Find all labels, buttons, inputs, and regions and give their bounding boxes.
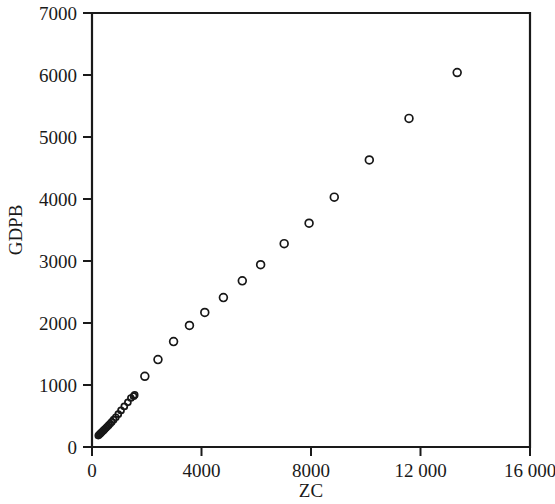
data-point [453,69,461,77]
data-point [330,193,338,201]
chart-page: 01000200030004000500060007000 0400080001… [0,0,555,504]
x-tick-label-4000: 4000 [183,460,221,481]
x-axis-ticks [92,447,530,456]
y-tick-label-2000: 2000 [39,313,77,334]
y-tick-label-7000: 7000 [39,3,77,24]
y-axis-ticks [83,13,92,447]
plot-frame [92,13,530,447]
data-point [405,115,413,123]
x-axis-tick-labels: 04000800012 00016 000 [87,460,555,481]
data-point [141,372,149,380]
data-point-group [95,69,461,439]
data-point [220,294,228,302]
data-point [186,322,194,330]
axis-frame-path [92,13,530,447]
y-tick-label-6000: 6000 [39,65,77,86]
data-point [305,219,313,227]
y-axis-title: GDPB [5,205,26,256]
y-tick-label-0: 0 [68,437,78,458]
data-point [201,309,209,317]
x-tick-label-12000: 12 000 [394,460,446,481]
x-tick-label-0: 0 [87,460,97,481]
data-point [280,240,288,248]
x-tick-label-8000: 8000 [292,460,330,481]
data-point [154,356,162,364]
data-point [257,261,265,269]
y-tick-label-5000: 5000 [39,127,77,148]
data-point [170,338,178,346]
scatter-plot: 01000200030004000500060007000 0400080001… [0,0,555,504]
x-tick-label-16000: 16 000 [504,460,555,481]
y-tick-label-3000: 3000 [39,251,77,272]
data-point [365,156,373,164]
y-tick-label-1000: 1000 [39,375,77,396]
data-point [238,277,246,285]
y-tick-label-4000: 4000 [39,189,77,210]
y-axis-tick-labels: 01000200030004000500060007000 [39,3,77,458]
x-axis-title: ZC [299,480,323,501]
